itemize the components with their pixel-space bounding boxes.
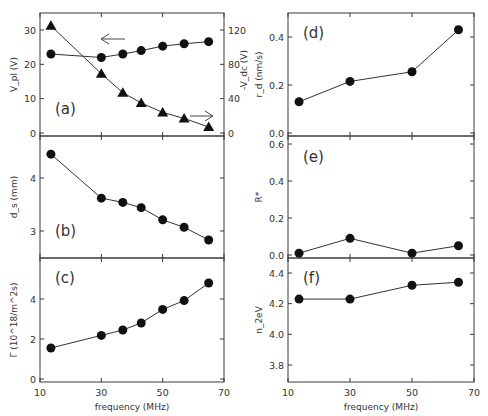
y-tick-label: 30 bbox=[24, 25, 36, 36]
data-point-circle bbox=[454, 278, 463, 287]
data-point-circle bbox=[137, 46, 146, 55]
data-point-circle bbox=[158, 42, 167, 51]
data-point-circle bbox=[97, 53, 106, 62]
y-tick-label: 0.4 bbox=[269, 176, 284, 187]
x-axis-label: frequency (MHz) bbox=[344, 402, 418, 412]
figure: 010203004080120V_pl (V)-V_dc (V)(a)34d_s… bbox=[0, 0, 488, 416]
data-point-circle bbox=[408, 67, 417, 76]
data-point-circle bbox=[180, 39, 189, 48]
data-point-circle bbox=[46, 344, 55, 353]
data-point-circle bbox=[295, 97, 304, 106]
x-tick-label: 10 bbox=[34, 387, 46, 398]
data-point-triangle bbox=[136, 97, 147, 107]
panel-label: (a) bbox=[55, 100, 76, 118]
data-point-circle bbox=[346, 295, 355, 304]
y-right-tick-label: 120 bbox=[228, 25, 246, 36]
data-point-circle bbox=[97, 331, 106, 340]
x-axis-label: frequency (MHz) bbox=[95, 402, 169, 412]
y-tick-label: 0 bbox=[30, 128, 36, 139]
panel-d: 0.00.20.4r_d (nm/s)(d) bbox=[254, 13, 474, 139]
y-tick-label: 4 bbox=[30, 173, 36, 184]
series-line bbox=[299, 238, 458, 253]
y-tick-label: 0.2 bbox=[269, 80, 284, 91]
y-tick-label: 0.4 bbox=[269, 32, 284, 43]
y-right-axis-label: -V_dc (V) bbox=[239, 50, 249, 90]
y-axis-label: R* bbox=[254, 191, 264, 202]
panel-label: (e) bbox=[303, 148, 324, 166]
data-point-circle bbox=[295, 249, 304, 258]
series-line bbox=[51, 283, 209, 348]
data-point-circle bbox=[346, 77, 355, 86]
y-axis-label: d_s (mm) bbox=[9, 176, 19, 218]
x-tick-label: 30 bbox=[344, 387, 356, 398]
y-tick-label: 2 bbox=[30, 334, 36, 345]
data-point-circle bbox=[46, 150, 55, 159]
panel-label: (b) bbox=[55, 222, 76, 240]
series-line bbox=[299, 282, 458, 299]
y-axis-label: r_d (nm/s) bbox=[254, 52, 264, 98]
y-axis-label: Γ (10^18/m^2s) bbox=[9, 282, 19, 357]
y-tick-label: 20 bbox=[24, 59, 36, 70]
y-tick-label: 3 bbox=[30, 226, 36, 237]
x-tick-label: 70 bbox=[218, 387, 230, 398]
data-point-circle bbox=[454, 25, 463, 34]
data-point-triangle bbox=[157, 107, 168, 117]
y-tick-label: 10 bbox=[24, 93, 36, 104]
data-point-triangle bbox=[45, 20, 56, 30]
data-point-circle bbox=[46, 50, 55, 59]
x-tick-label: 10 bbox=[282, 387, 294, 398]
data-point-triangle bbox=[203, 121, 214, 131]
data-point-circle bbox=[97, 194, 106, 203]
y-axis-label: n_2eV bbox=[254, 305, 264, 333]
panel-b: 34d_s (mm)(b) bbox=[9, 136, 224, 258]
panel-label: (f) bbox=[303, 269, 320, 287]
data-point-circle bbox=[118, 198, 127, 207]
data-point-circle bbox=[118, 326, 127, 335]
panel-a: 010203004080120V_pl (V)-V_dc (V)(a) bbox=[9, 13, 249, 139]
y-tick-label: 0.2 bbox=[269, 213, 284, 224]
data-point-circle bbox=[158, 215, 167, 224]
y-tick-label: 0.0 bbox=[269, 128, 284, 139]
y-axis-label: V_pl (V) bbox=[9, 57, 19, 92]
data-point-triangle bbox=[117, 87, 128, 97]
data-point-circle bbox=[137, 319, 146, 328]
y-tick-label: 3.8 bbox=[269, 360, 284, 371]
y-tick-label: 4.2 bbox=[269, 298, 284, 309]
y-tick-label: 0.0 bbox=[269, 250, 284, 261]
x-tick-label: 70 bbox=[468, 387, 480, 398]
y-tick-label: 0 bbox=[30, 374, 36, 385]
panel-f: 10305070frequency (MHz)3.84.04.24.4n_2eV… bbox=[254, 258, 480, 412]
x-tick-label: 50 bbox=[406, 387, 418, 398]
y-tick-label: 4 bbox=[30, 294, 36, 305]
panel-e: 0.00.20.40.6R*(e) bbox=[254, 136, 474, 261]
data-point-circle bbox=[204, 236, 213, 245]
y-tick-label: 4.0 bbox=[269, 329, 284, 340]
data-point-circle bbox=[295, 295, 304, 304]
y-tick-label: 4.4 bbox=[269, 268, 284, 279]
data-point-circle bbox=[346, 234, 355, 243]
x-tick-label: 50 bbox=[157, 387, 169, 398]
data-point-circle bbox=[408, 249, 417, 258]
data-point-circle bbox=[180, 223, 189, 232]
data-point-circle bbox=[118, 50, 127, 59]
y-right-tick-label: 40 bbox=[228, 93, 240, 104]
data-point-circle bbox=[408, 281, 417, 290]
y-tick-label: 0.6 bbox=[269, 139, 284, 150]
data-point-circle bbox=[454, 241, 463, 250]
data-point-circle bbox=[204, 37, 213, 46]
panel-label: (c) bbox=[55, 269, 75, 287]
x-tick-label: 30 bbox=[95, 387, 107, 398]
data-point-circle bbox=[158, 305, 167, 314]
panel-label: (d) bbox=[303, 24, 324, 42]
panel-c: 10305070frequency (MHz)024Γ (10^18/m^2s)… bbox=[9, 258, 230, 412]
y-right-tick-label: 0 bbox=[228, 128, 234, 139]
data-point-circle bbox=[204, 279, 213, 288]
data-point-circle bbox=[137, 203, 146, 212]
data-point-circle bbox=[180, 296, 189, 305]
